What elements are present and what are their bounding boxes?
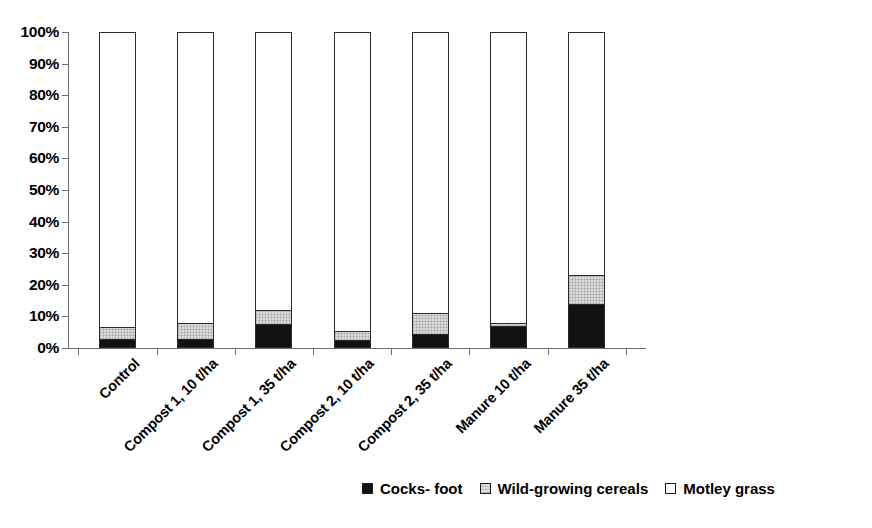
bar-segment: [412, 334, 449, 348]
bar-segment: [568, 304, 605, 348]
x-axis-tick-mark: [469, 348, 470, 355]
bar-segment: [412, 32, 449, 313]
bar-segment: [568, 275, 605, 303]
y-axis-tick-label: 60%: [29, 151, 59, 167]
legend-swatch-icon: [362, 483, 373, 494]
y-axis-tick-mark: [62, 253, 68, 254]
y-axis-tick-label: 40%: [29, 214, 59, 230]
x-axis-line: [68, 348, 646, 349]
chart-legend: Cocks- footWild-growing cerealsMotley gr…: [362, 481, 775, 496]
bar-segment: [490, 32, 527, 323]
bar-segment: [177, 32, 214, 323]
legend-item: Motley grass: [665, 481, 775, 496]
x-axis-tick-mark: [313, 348, 314, 355]
y-axis-tick-mark: [62, 285, 68, 286]
x-axis-tick-mark: [157, 348, 158, 355]
bar-segment: [99, 339, 136, 348]
plot-area: [68, 32, 646, 348]
y-axis-tick-mark: [62, 95, 68, 96]
stacked-bar-chart: 0%10%20%30%40%50%60%70%80%90%100% Contro…: [0, 0, 872, 528]
x-axis-tick-mark: [391, 348, 392, 355]
y-axis-tick-mark: [62, 190, 68, 191]
bar-segment: [334, 340, 371, 348]
y-axis-tick-label: 0%: [37, 340, 59, 356]
legend-label: Motley grass: [683, 481, 775, 496]
bar-segment: [177, 339, 214, 348]
y-axis-tick-label: 90%: [29, 56, 59, 72]
y-axis-tick-mark: [62, 348, 68, 349]
y-axis-tick-label: 80%: [29, 87, 59, 103]
y-axis-tick-mark: [62, 32, 68, 33]
y-axis-tick-mark: [62, 127, 68, 128]
bar-segment: [334, 331, 371, 340]
y-axis-tick-mark: [62, 316, 68, 317]
bar-column: [568, 32, 605, 348]
y-axis-tick-label: 20%: [29, 277, 59, 293]
bar-column: [490, 32, 527, 348]
bar-segment: [334, 32, 371, 331]
bar-segment: [99, 327, 136, 338]
legend-item: Cocks- foot: [362, 481, 463, 496]
x-axis-tick-mark: [235, 348, 236, 355]
x-axis-category-label: Manure 10 t/ha: [453, 356, 533, 436]
y-axis-tick-mark: [62, 158, 68, 159]
bar-segment: [568, 32, 605, 275]
bar-segment: [412, 313, 449, 334]
bar-column: [177, 32, 214, 348]
x-axis-category-label: Manure 35 t/ha: [531, 356, 611, 436]
bar-segment: [255, 310, 292, 324]
bar-column: [99, 32, 136, 348]
legend-swatch-icon: [480, 483, 491, 494]
y-axis-tick-mark: [62, 222, 68, 223]
bar-segment: [177, 323, 214, 339]
bar-segment: [255, 324, 292, 348]
legend-item: Wild-growing cereals: [480, 481, 649, 496]
bar-column: [412, 32, 449, 348]
x-axis-category-label: Control: [96, 356, 142, 402]
bar-segment: [255, 32, 292, 310]
legend-swatch-icon: [665, 483, 676, 494]
bar-segment: [99, 32, 136, 327]
y-axis-tick-label: 30%: [29, 245, 59, 261]
y-axis-tick-mark: [62, 64, 68, 65]
x-axis-tick-mark: [626, 348, 627, 355]
bar-segment: [490, 326, 527, 348]
bar-column: [334, 32, 371, 348]
legend-label: Cocks- foot: [380, 481, 463, 496]
bar-column: [255, 32, 292, 348]
y-axis-tick-label: 100%: [21, 24, 59, 40]
y-axis-tick-label: 70%: [29, 119, 59, 135]
x-axis-tick-mark: [78, 348, 79, 355]
legend-label: Wild-growing cereals: [498, 481, 649, 496]
x-axis-tick-mark: [548, 348, 549, 355]
y-axis-tick-label: 10%: [29, 309, 59, 325]
y-axis-tick-label: 50%: [29, 182, 59, 198]
